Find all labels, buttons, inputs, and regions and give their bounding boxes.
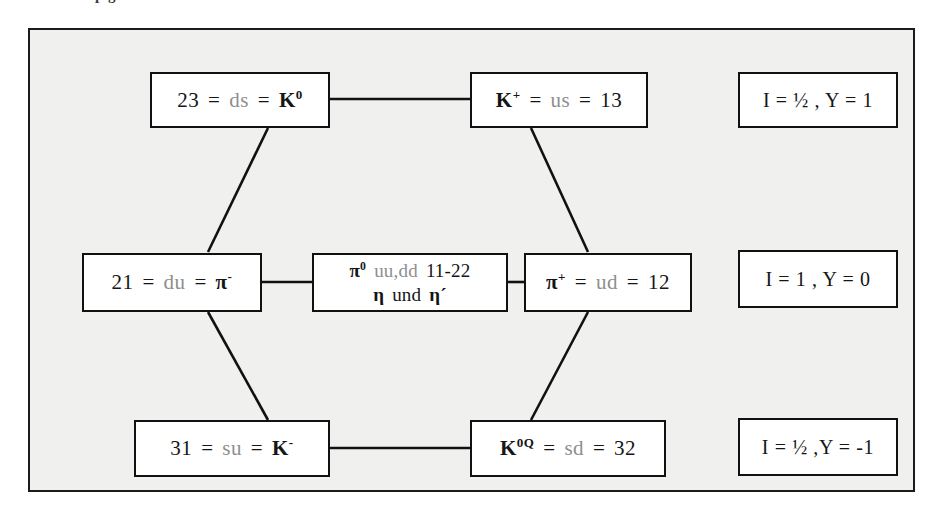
node-k0-label: 23=ds=K0 (177, 88, 302, 112)
node-center-neutral[interactable]: π0uu,dd11-22 ηundη´ (312, 253, 508, 312)
node-k0bar-particle: K (500, 436, 517, 460)
node-kplus[interactable]: K+=us=13 (470, 72, 648, 128)
node-kplus-code: 13 (600, 88, 622, 112)
equals-5: = (142, 270, 154, 294)
equals-2: = (258, 88, 270, 112)
equals-3: = (529, 88, 541, 112)
quantum-label-middle-text: I = 1 , Y = 0 (766, 268, 871, 291)
quantum-label-middle[interactable]: I = 1 , Y = 0 (738, 250, 898, 308)
clipped-header-text: p g (95, 0, 116, 4)
equals-6: = (194, 270, 206, 294)
node-k0bar-code: 32 (614, 436, 636, 460)
equals-4: = (579, 88, 591, 112)
node-piplus-sup: + (558, 269, 566, 284)
node-k0[interactable]: 23=ds=K0 (150, 72, 330, 128)
node-center-pi: π (349, 260, 360, 281)
node-k0bar-quarks: sd (564, 436, 584, 460)
node-kminus-sup: - (289, 435, 294, 450)
node-k0-code: 23 (177, 88, 199, 112)
node-piminus-quarks: du (164, 270, 186, 294)
node-kplus-sup: + (513, 87, 521, 102)
node-k0bar-sup: 0Q (517, 435, 535, 450)
node-k0-quarks: ds (229, 88, 249, 112)
equals-8: = (627, 270, 639, 294)
node-piplus-particle: π (546, 270, 558, 294)
quantum-label-top-text: I = ½ , Y = 1 (763, 89, 873, 112)
node-piplus-quarks: ud (596, 270, 618, 294)
node-k0bar[interactable]: K0Q=sd=32 (470, 420, 666, 477)
node-center-eta-prime: η´ (429, 284, 447, 305)
node-kplus-particle: K (496, 88, 513, 112)
equals-7: = (575, 270, 587, 294)
node-kminus-particle: K (272, 436, 289, 460)
node-kplus-label: K+=us=13 (496, 88, 622, 112)
node-piplus-code: 12 (648, 270, 670, 294)
node-center-eta: η (373, 284, 384, 305)
node-center-quarks: uu,dd (374, 260, 418, 281)
node-piminus-code: 21 (112, 270, 134, 294)
node-k0-sup: 0 (296, 87, 303, 102)
node-piminus-particle: π (216, 270, 228, 294)
equals-11: = (543, 436, 555, 460)
node-center-und: und (392, 284, 421, 305)
node-center-line2: ηundη´ (373, 284, 447, 306)
equals-1: = (208, 88, 220, 112)
equals-9: = (201, 436, 213, 460)
node-piminus[interactable]: 21=du=π- (82, 253, 262, 312)
node-piminus-sup: - (228, 269, 233, 284)
node-k0bar-label: K0Q=sd=32 (500, 436, 636, 460)
node-piplus-label: π+=ud=12 (546, 270, 670, 294)
node-piminus-label: 21=du=π- (112, 270, 233, 294)
diagram-page: p g 23=ds=K0 K+=us=13 I = ½ , Y = 1 (0, 0, 941, 531)
quantum-label-bottom-text: I = ½ ,Y = -1 (762, 436, 874, 459)
node-kplus-quarks: us (551, 88, 571, 112)
node-center-line1: π0uu,dd11-22 (349, 260, 470, 282)
quantum-label-top[interactable]: I = ½ , Y = 1 (738, 72, 898, 128)
node-kminus-quarks: su (222, 436, 242, 460)
node-k0-particle: K (279, 88, 296, 112)
equals-12: = (593, 436, 605, 460)
node-kminus-code: 31 (170, 436, 192, 460)
node-center-pi-sup: 0 (360, 259, 366, 272)
equals-10: = (251, 436, 263, 460)
node-center-codes: 11-22 (426, 260, 471, 281)
node-piplus[interactable]: π+=ud=12 (524, 253, 692, 312)
quantum-label-bottom[interactable]: I = ½ ,Y = -1 (738, 418, 898, 476)
node-kminus-label: 31=su=K- (170, 436, 293, 460)
node-kminus[interactable]: 31=su=K- (134, 420, 330, 477)
